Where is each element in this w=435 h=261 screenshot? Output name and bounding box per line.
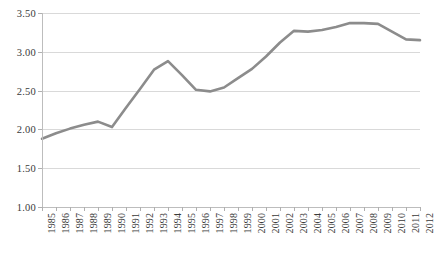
x-tick-mark [336, 207, 337, 211]
x-tick-mark [98, 207, 99, 211]
y-tick-mark [38, 52, 42, 53]
x-tick-mark [406, 207, 407, 211]
x-tick-label: 1999 [242, 213, 253, 233]
series-layer [42, 13, 420, 207]
x-tick-mark [266, 207, 267, 211]
x-tick-label: 1985 [46, 213, 57, 233]
y-tick-label: 2.50 [0, 85, 36, 96]
y-tick-label: 3.00 [0, 46, 36, 57]
x-tick-mark [224, 207, 225, 211]
x-tick-label: 1990 [116, 213, 127, 233]
plot-area [42, 13, 420, 207]
x-tick-label: 1994 [172, 213, 183, 233]
x-tick-label: 2002 [284, 213, 295, 233]
x-tick-label: 2012 [424, 213, 435, 233]
y-tick-mark [38, 168, 42, 169]
x-tick-label: 1989 [102, 213, 113, 233]
x-tick-mark [42, 207, 43, 211]
x-tick-label: 2009 [382, 213, 393, 233]
x-tick-label: 1993 [158, 213, 169, 233]
x-tick-label: 2007 [354, 213, 365, 233]
x-tick-mark [154, 207, 155, 211]
y-tick-mark [38, 129, 42, 130]
x-tick-mark [182, 207, 183, 211]
x-tick-label: 1998 [228, 213, 239, 233]
y-tick-label: 1.50 [0, 163, 36, 174]
x-tick-mark [126, 207, 127, 211]
y-tick-label: 1.00 [0, 202, 36, 213]
x-tick-mark [168, 207, 169, 211]
x-tick-label: 2001 [270, 213, 281, 233]
x-tick-label: 1995 [186, 213, 197, 233]
x-tick-label: 2006 [340, 213, 351, 233]
x-tick-mark [420, 207, 421, 211]
x-tick-label: 2008 [368, 213, 379, 233]
x-tick-label: 2010 [396, 213, 407, 233]
y-tick-mark [38, 91, 42, 92]
y-tick-label: 3.50 [0, 8, 36, 19]
x-tick-label: 1988 [88, 213, 99, 233]
y-axis-line [42, 13, 43, 207]
y-tick-mark [38, 13, 42, 14]
x-tick-label: 2004 [312, 213, 323, 233]
x-tick-label: 2005 [326, 213, 337, 233]
x-tick-mark [294, 207, 295, 211]
x-tick-mark [280, 207, 281, 211]
x-tick-mark [112, 207, 113, 211]
x-tick-mark [322, 207, 323, 211]
x-tick-label: 2003 [298, 213, 309, 233]
x-tick-mark [378, 207, 379, 211]
x-tick-mark [140, 207, 141, 211]
x-tick-mark [252, 207, 253, 211]
series-line [42, 23, 420, 139]
y-tick-label: 2.00 [0, 124, 36, 135]
x-tick-mark [392, 207, 393, 211]
x-tick-label: 1992 [144, 213, 155, 233]
x-tick-label: 2011 [410, 213, 421, 233]
x-tick-label: 1987 [74, 213, 85, 233]
x-tick-mark [308, 207, 309, 211]
x-tick-label: 1996 [200, 213, 211, 233]
x-tick-mark [210, 207, 211, 211]
x-tick-label: 1991 [130, 213, 141, 233]
x-tick-mark [364, 207, 365, 211]
x-tick-mark [56, 207, 57, 211]
x-tick-label: 1986 [60, 213, 71, 233]
x-tick-mark [70, 207, 71, 211]
x-tick-mark [196, 207, 197, 211]
x-tick-mark [84, 207, 85, 211]
x-tick-label: 2000 [256, 213, 267, 233]
x-tick-label: 1997 [214, 213, 225, 233]
x-tick-mark [238, 207, 239, 211]
x-tick-mark [350, 207, 351, 211]
